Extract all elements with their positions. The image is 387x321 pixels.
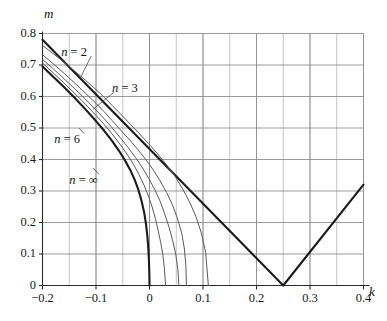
axis-ticks <box>39 34 364 290</box>
y-tick-label: 0.4 <box>2 152 36 167</box>
curve-label-1: n = 3 <box>112 81 138 96</box>
x-tick-label: 0 <box>128 291 172 306</box>
y-tick-label: 0.3 <box>2 183 36 198</box>
curve-label-3: n = ∞ <box>69 173 97 188</box>
chart-root: m k 00.10.20.30.40.50.60.70.8 −0.2−0.100… <box>0 0 387 321</box>
axis-frame <box>43 32 370 286</box>
curve-label-0: n = 2 <box>61 45 87 60</box>
x-tick-label: 0.4 <box>342 291 386 306</box>
x-tick-label: 0.2 <box>235 291 279 306</box>
x-tick-label: −0.1 <box>74 291 118 306</box>
x-tick-label: 0.3 <box>288 291 332 306</box>
x-tick-label: 0.1 <box>181 291 225 306</box>
y-tick-label: 0.7 <box>2 57 36 72</box>
y-tick-label: 0.2 <box>2 215 36 230</box>
curve-label-2: n = 6 <box>54 132 80 147</box>
y-tick-label: 0.5 <box>2 120 36 135</box>
y-tick-label: 0.1 <box>2 246 36 261</box>
y-tick-label: 0.6 <box>2 89 36 104</box>
y-tick-label: 0.8 <box>2 26 36 41</box>
x-tick-label: −0.2 <box>21 291 65 306</box>
plot-canvas <box>0 0 387 321</box>
